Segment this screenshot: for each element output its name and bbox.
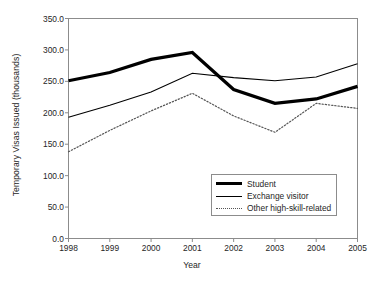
legend: Student Exchange visitor Other high-skil…	[211, 174, 337, 216]
legend-swatch-exchange-visitor	[216, 191, 242, 201]
legend-item-other-high-skill-related: Other high-skill-related	[216, 202, 332, 214]
x-tick-label: 2001	[170, 243, 214, 253]
legend-swatch-student	[216, 179, 242, 189]
x-axis-title: Year	[0, 260, 384, 270]
x-tick-label: 2005	[336, 243, 380, 253]
legend-label-exchange-visitor: Exchange visitor	[247, 191, 308, 201]
legend-item-student: Student	[216, 178, 332, 190]
x-tick-label: 2002	[212, 243, 256, 253]
x-tick-label: 2004	[294, 243, 338, 253]
x-axis-tick-labels: 19981999200020012002200320042005	[0, 243, 384, 259]
legend-label-other-high-skill-related: Other high-skill-related	[247, 203, 331, 213]
series-line-other-high-skill-related	[69, 93, 358, 151]
x-tick-label: 2003	[253, 243, 297, 253]
line-chart: Temporary Visas Issued (thousands) 0.050…	[0, 0, 384, 285]
x-tick-label: 1998	[47, 243, 91, 253]
legend-swatch-other-high-skill-related	[216, 203, 242, 213]
series-lines	[69, 52, 358, 151]
legend-item-exchange-visitor: Exchange visitor	[216, 190, 332, 202]
x-tick-label: 1999	[88, 243, 132, 253]
series-line-student	[69, 52, 358, 103]
x-tick-label: 2000	[129, 243, 173, 253]
x-axis-title-text: Year	[183, 260, 200, 270]
legend-label-student: Student	[247, 179, 276, 189]
